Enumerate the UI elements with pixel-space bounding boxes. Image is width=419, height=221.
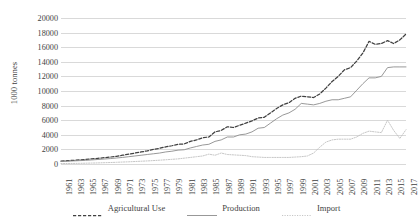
legend-swatch-icon: [282, 205, 312, 212]
x-tick-label: 1987: [225, 179, 234, 195]
x-tick-label: 1981: [188, 179, 197, 195]
x-tick-label: 1993: [262, 179, 271, 195]
y-tick-label: 14000: [22, 57, 58, 66]
y-tick-label: 0: [22, 160, 58, 169]
x-tick-label: 1989: [237, 179, 246, 195]
legend-swatch-icon: [187, 205, 217, 212]
x-tick-label: 1997: [286, 179, 295, 195]
chart-legend: Agricultural UseProductionImport: [0, 200, 413, 216]
y-axis-title-label: 1000 tonnes: [9, 62, 19, 104]
x-tick-label: 1991: [249, 179, 258, 195]
x-tick-label: 2007: [348, 179, 357, 195]
legend-label: Production: [222, 203, 260, 213]
series-lines: [61, 18, 406, 164]
y-tick-label: 18000: [22, 28, 58, 37]
y-tick-label: 20000: [22, 14, 58, 23]
y-tick-label: 6000: [22, 116, 58, 125]
x-tick-label: 2001: [311, 179, 320, 195]
x-tick-label: 2013: [385, 179, 394, 195]
y-axis-tick-labels: 2000018000160001400012000100008000600040…: [22, 18, 58, 164]
series-line-agricultural-use: [61, 34, 406, 161]
x-tick-label: 1971: [126, 179, 135, 195]
legend-label: Import: [317, 203, 340, 213]
x-tick-label: 2003: [323, 179, 332, 195]
x-tick-label: 1977: [163, 179, 172, 195]
x-tick-label: 2009: [360, 179, 369, 195]
series-line-production: [61, 67, 406, 162]
x-axis-tick-labels: 1961196319651967196919711973197519771979…: [61, 165, 406, 197]
x-tick-label: 2015: [397, 179, 406, 195]
x-tick-label: 1965: [89, 179, 98, 195]
x-tick-label: 2005: [336, 179, 345, 195]
y-tick-label: 8000: [22, 101, 58, 110]
plot-area: [61, 18, 406, 164]
x-tick-label: 1969: [114, 179, 123, 195]
x-tick-label: 1979: [175, 179, 184, 195]
x-tick-label: 1963: [77, 179, 86, 195]
legend-item[interactable]: Import: [282, 203, 340, 213]
y-tick-label: 12000: [22, 72, 58, 81]
y-tick-label: 2000: [22, 145, 58, 154]
x-tick-label: 2017: [410, 179, 419, 195]
x-tick-label: 1967: [101, 179, 110, 195]
x-tick-label: 1983: [200, 179, 209, 195]
y-tick-label: 10000: [22, 87, 58, 96]
x-tick-label: 1973: [138, 179, 147, 195]
x-tick-label: 2011: [373, 179, 382, 195]
x-tick-label: 1995: [274, 179, 283, 195]
y-tick-label: 4000: [22, 130, 58, 139]
x-tick-label: 1975: [151, 179, 160, 195]
y-tick-label: 16000: [22, 43, 58, 52]
x-tick-label: 1961: [65, 179, 74, 195]
legend-label: Agricultural Use: [108, 203, 166, 213]
x-tick-label: 1985: [212, 179, 221, 195]
legend-item[interactable]: Agricultural Use: [73, 203, 166, 213]
legend-item[interactable]: Production: [187, 203, 260, 213]
x-tick-label: 1999: [299, 179, 308, 195]
legend-swatch-icon: [73, 205, 103, 212]
